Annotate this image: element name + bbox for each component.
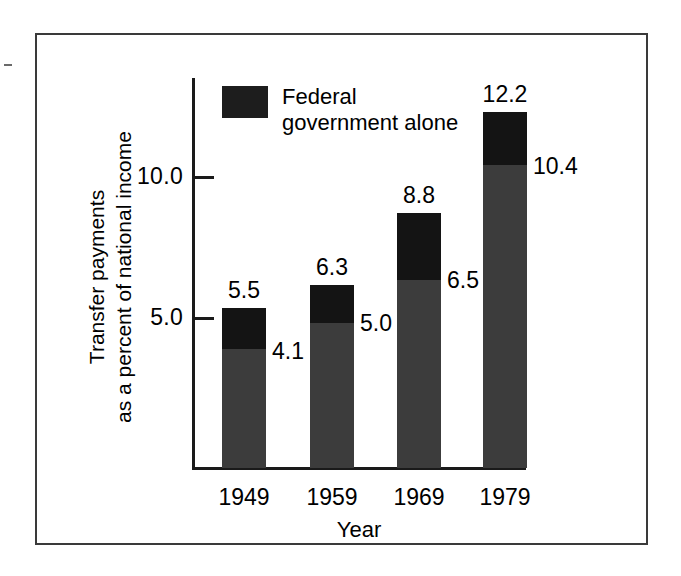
bar-total-label-1979: 12.2 [460, 83, 550, 106]
bar-segment-federal-1979 [483, 165, 527, 468]
bar-segment-nonfederal-1979 [483, 112, 527, 165]
bar-1949[interactable] [222, 308, 266, 468]
bar-total-label-1969: 8.8 [374, 184, 464, 207]
x-tick-label-1959: 1959 [287, 486, 377, 509]
bar-1959[interactable] [310, 285, 354, 468]
plot-area: Transfer payments as a percent of nation… [0, 0, 681, 576]
y-tick-label-5-wrap: 5.0 [113, 306, 183, 329]
y-tick-mark-5 [195, 317, 214, 320]
bar-federal-label-1979: 10.4 [533, 155, 597, 178]
x-tick-label-1979: 1979 [460, 486, 550, 509]
legend: Federal government alone [222, 84, 458, 136]
bar-segment-federal-1949 [222, 349, 266, 468]
legend-swatch-federal-icon [222, 86, 268, 118]
x-axis-title: Year [192, 519, 526, 541]
bar-segment-nonfederal-1969 [397, 213, 441, 280]
bar-segment-nonfederal-1949 [222, 308, 266, 349]
x-tick-label-1969: 1969 [374, 486, 464, 509]
y-axis-title: Transfer payments as a percent of nation… [83, 112, 137, 442]
bar-total-label-1959: 6.3 [287, 256, 377, 279]
bar-chart-figure: Transfer payments as a percent of nation… [0, 0, 681, 576]
bar-segment-federal-1959 [310, 323, 354, 468]
y-axis-line [192, 78, 195, 470]
y-tick-mark-10 [195, 176, 214, 179]
y-tick-label-10: 10.0 [121, 165, 183, 188]
x-tick-label-1949: 1949 [199, 486, 289, 509]
bar-total-label-1949: 5.5 [199, 279, 289, 302]
bar-1979[interactable] [483, 112, 527, 468]
y-tick-label-5: 5.0 [121, 306, 183, 329]
bar-segment-federal-1969 [397, 280, 441, 468]
y-tick-label-10-wrap: 10.0 [113, 165, 183, 188]
legend-label-federal: Federal government alone [282, 84, 458, 136]
bar-1969[interactable] [397, 213, 441, 468]
bar-segment-nonfederal-1959 [310, 285, 354, 323]
